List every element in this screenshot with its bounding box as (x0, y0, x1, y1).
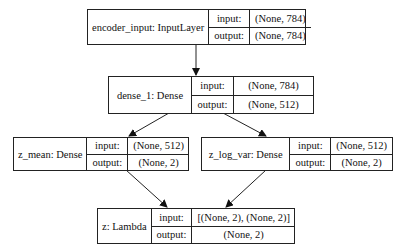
input-shape: (None, 512) (128, 138, 189, 154)
output-label: output: (209, 27, 249, 45)
output-shape: (None, 784) (250, 27, 311, 45)
input-label: input: (290, 138, 330, 154)
node-dense-1[interactable]: dense_1: Dense input: output: (None, 784… (108, 76, 314, 114)
edge-z-mean-to-z (126, 170, 167, 207)
input-label: input: (87, 138, 127, 154)
edge-dense-1-to-z-log-var (223, 113, 266, 136)
input-shape: (None, 512) (331, 138, 392, 154)
node-encoder-input[interactable]: encoder_input: InputLayer input: output:… (87, 9, 306, 45)
output-label: output: (192, 95, 233, 114)
node-z-mean[interactable]: z_mean: Dense input: output: (None, 512)… (13, 137, 189, 171)
output-label: output: (87, 154, 127, 171)
input-label: input: (209, 10, 249, 27)
output-label: output: (290, 154, 330, 171)
node-name: z: Lambda (98, 209, 152, 243)
input-shape: (None, 784) (234, 77, 313, 95)
edge-dense-1-to-z-mean (129, 113, 169, 136)
output-shape: (None, 2) (128, 154, 189, 171)
output-label: output: (152, 226, 192, 244)
node-z-lambda[interactable]: z: Lambda input: output: [(None, 2), (No… (97, 208, 295, 244)
node-name: dense_1: Dense (109, 77, 192, 113)
output-shape: (None, 512) (234, 95, 313, 114)
node-name: encoder_input: InputLayer (88, 10, 209, 44)
edge-z-log-var-to-z (226, 170, 266, 207)
node-name: z_log_var: Dense (202, 138, 290, 170)
node-z-log-var[interactable]: z_log_var: Dense input: output: (None, 5… (201, 137, 393, 171)
output-shape: (None, 2) (331, 154, 392, 171)
output-shape: (None, 2) (192, 226, 295, 244)
input-shape: [(None, 2), (None, 2)] (192, 209, 295, 226)
input-label: input: (192, 77, 233, 95)
input-label: input: (152, 209, 192, 226)
input-shape: (None, 784) (250, 10, 311, 27)
node-name: z_mean: Dense (14, 138, 87, 170)
